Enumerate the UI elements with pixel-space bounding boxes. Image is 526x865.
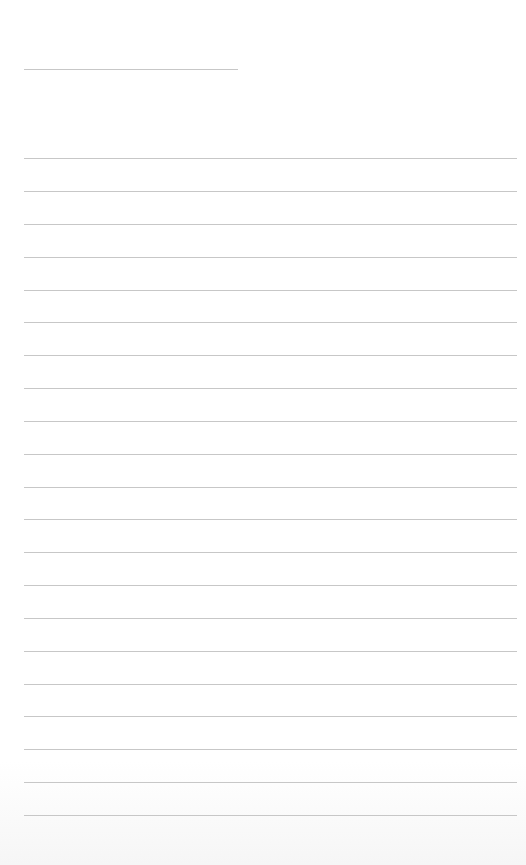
ruled-line [24,815,517,816]
ruled-line [24,651,517,652]
ruled-line [24,421,517,422]
ruled-line [24,782,517,783]
ruled-line [24,749,517,750]
ruled-line [24,454,517,455]
ruled-line [24,158,517,159]
ruled-line [24,716,517,717]
ruled-line [24,684,517,685]
ruled-line [24,487,517,488]
ruled-line [24,355,517,356]
ruled-line [24,519,517,520]
title-line [24,69,238,70]
ruled-line [24,290,517,291]
ruled-line [24,585,517,586]
ruled-line [24,257,517,258]
ruled-line [24,191,517,192]
ruled-line [24,322,517,323]
ruled-line [24,618,517,619]
ruled-line [24,552,517,553]
lined-paper-sheet [0,0,526,865]
ruled-line [24,388,517,389]
ruled-line [24,224,517,225]
